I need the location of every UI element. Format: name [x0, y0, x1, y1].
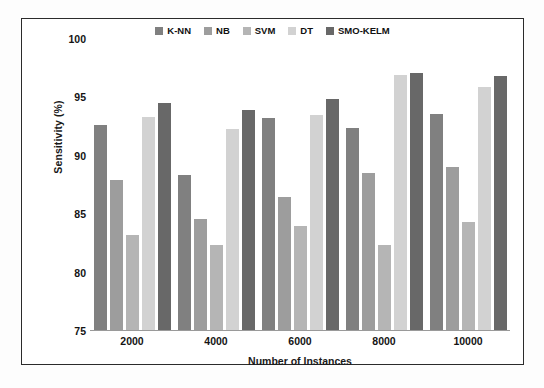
bar-smo-kelm-4000[interactable] [242, 110, 255, 331]
x-tick-label-6000: 6000 [258, 335, 342, 347]
bar-smo-kelm-6000[interactable] [326, 99, 339, 331]
legend-swatch-icon [155, 27, 163, 35]
legend-label: SMO-KELM [338, 25, 390, 36]
x-tick-label-8000: 8000 [342, 335, 426, 347]
bar-nb-2000[interactable] [110, 180, 123, 331]
legend-swatch-icon [326, 27, 334, 35]
bar-svm-8000[interactable] [378, 245, 391, 331]
chart-frame: K-NNNBSVMDTSMO-KELM Sensitivity (%) 7580… [21, 18, 524, 365]
x-tick-label-2000: 2000 [90, 335, 174, 347]
bar-smo-kelm-2000[interactable] [158, 103, 171, 331]
legend-label: DT [300, 25, 313, 36]
y-tick-label: 90 [52, 150, 86, 162]
bar-k-nn-2000[interactable] [94, 125, 107, 331]
bar-k-nn-4000[interactable] [178, 175, 191, 332]
legend-swatch-icon [243, 27, 251, 35]
bar-nb-4000[interactable] [194, 219, 207, 331]
bar-dt-2000[interactable] [142, 117, 155, 331]
bar-nb-8000[interactable] [362, 173, 375, 331]
bar-svm-10000[interactable] [462, 222, 475, 331]
y-tick-label: 100 [52, 33, 86, 45]
plot-area [90, 39, 510, 331]
bar-k-nn-8000[interactable] [346, 128, 359, 331]
legend-item-k-nn[interactable]: K-NN [155, 25, 191, 36]
y-tick-label: 85 [52, 208, 86, 220]
figure-container: K-NNNBSVMDTSMO-KELM Sensitivity (%) 7580… [0, 0, 544, 388]
y-axis-tick-labels: 7580859095100 [48, 19, 86, 364]
bar-dt-8000[interactable] [394, 75, 407, 331]
x-axis-tick-labels: 200040006000800010000 [90, 335, 510, 347]
bar-dt-4000[interactable] [226, 129, 239, 331]
x-tick-label-4000: 4000 [174, 335, 258, 347]
bar-group-8000 [346, 39, 423, 331]
bar-smo-kelm-10000[interactable] [494, 76, 507, 331]
y-tick-label: 95 [52, 91, 86, 103]
legend-swatch-icon [204, 27, 212, 35]
bar-nb-6000[interactable] [278, 197, 291, 331]
bar-k-nn-10000[interactable] [430, 114, 443, 331]
legend-item-smo-kelm[interactable]: SMO-KELM [326, 25, 390, 36]
legend-swatch-icon [288, 27, 296, 35]
bar-dt-6000[interactable] [310, 115, 323, 331]
bar-group-2000 [94, 39, 171, 331]
bar-dt-10000[interactable] [478, 87, 491, 331]
x-axis-title: Number of Instances [90, 355, 510, 367]
x-tick-label-10000: 10000 [426, 335, 510, 347]
x-axis-line [90, 330, 510, 332]
legend-item-svm[interactable]: SVM [243, 25, 276, 36]
bar-groups [90, 39, 510, 331]
legend-item-dt[interactable]: DT [288, 25, 313, 36]
legend-item-nb[interactable]: NB [204, 25, 230, 36]
bar-svm-6000[interactable] [294, 226, 307, 331]
bar-k-nn-6000[interactable] [262, 118, 275, 331]
legend-label: K-NN [167, 25, 191, 36]
bar-smo-kelm-8000[interactable] [410, 73, 423, 331]
bar-group-6000 [262, 39, 339, 331]
y-tick-label: 80 [52, 267, 86, 279]
plot-wrapper: K-NNNBSVMDTSMO-KELM Sensitivity (%) 7580… [22, 19, 523, 364]
bar-svm-4000[interactable] [210, 245, 223, 331]
legend-label: NB [216, 25, 230, 36]
bar-svm-2000[interactable] [126, 235, 139, 331]
bar-group-10000 [430, 39, 507, 331]
y-tick-label: 75 [52, 325, 86, 337]
legend-label: SVM [255, 25, 276, 36]
bar-group-4000 [178, 39, 255, 331]
chart-legend: K-NNNBSVMDTSMO-KELM [22, 25, 523, 36]
bar-nb-10000[interactable] [446, 167, 459, 331]
